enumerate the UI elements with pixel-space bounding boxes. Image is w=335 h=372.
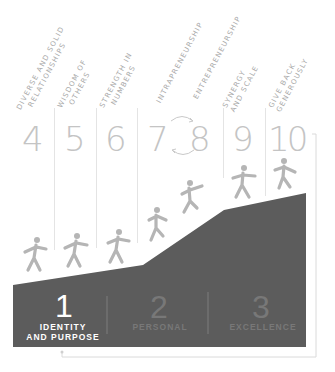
label-line: AND PURPOSE [20, 332, 106, 342]
person-figure-icon [65, 233, 87, 266]
stage-number-3: 3 [252, 291, 270, 323]
label-line: IDENTITY [20, 322, 106, 332]
person-figure-icon [182, 180, 202, 212]
stage-number-2: 2 [150, 291, 168, 323]
person-figure-icon [275, 158, 295, 188]
person-figure-icon [108, 229, 129, 262]
cycle-arrows-icon [171, 117, 194, 155]
stage-label-3: EXCELLENCE [225, 322, 301, 332]
person-figure-icon [233, 165, 255, 197]
stage-label-1: IDENTITY AND PURPOSE [20, 322, 106, 342]
stage-label-2: PERSONAL [125, 322, 195, 332]
person-figure-icon [149, 207, 166, 240]
stage-number-1: 1 [55, 290, 73, 322]
person-figure-icon [25, 237, 46, 270]
